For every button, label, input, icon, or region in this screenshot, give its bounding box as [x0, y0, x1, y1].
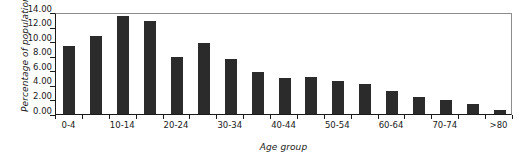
x-tick-label: 20-24: [164, 121, 189, 130]
bar: [494, 110, 506, 114]
y-tick-label: 6.00: [33, 63, 52, 72]
x-tick-mark: [431, 115, 432, 119]
bar: [63, 46, 75, 114]
bar: [144, 21, 156, 114]
x-tick-mark: [378, 115, 379, 119]
y-tick-label: 4.00: [33, 77, 52, 86]
y-tick-label: 12.00: [28, 19, 52, 28]
y-tick-mark: [50, 28, 55, 29]
x-tick-mark: [163, 115, 164, 119]
bar: [117, 16, 129, 114]
x-tick-label: 70-74: [432, 121, 457, 130]
x-tick-label: 50-54: [325, 121, 350, 130]
y-tick-mark: [50, 71, 55, 72]
bars-layer: [56, 14, 511, 114]
x-tick-mark: [82, 115, 83, 119]
x-axis-tick-labels: 0-410-1420-2430-3440-4450-5460-6470-74>8…: [0, 121, 519, 135]
y-tick-label: 8.00: [33, 48, 52, 57]
y-tick-mark: [50, 42, 55, 43]
bar: [279, 78, 291, 114]
x-tick-mark: [351, 115, 352, 119]
bar: [332, 81, 344, 115]
bar: [413, 97, 425, 114]
x-tick-mark: [324, 115, 325, 119]
bar: [305, 77, 317, 114]
plot-area: [55, 13, 512, 115]
x-tick-mark: [189, 115, 190, 119]
y-tick-mark: [50, 13, 55, 14]
x-tick-mark: [55, 115, 56, 119]
x-tick-mark: [297, 115, 298, 119]
x-tick-label: 60-64: [379, 121, 404, 130]
x-tick-label: 0-4: [61, 121, 75, 130]
y-tick-label: 2.00: [33, 92, 52, 101]
y-axis-tick-labels: 14.0012.0010.008.006.004.002.000.00: [18, 9, 52, 117]
x-tick-mark: [243, 115, 244, 119]
bar: [225, 59, 237, 114]
y-tick-mark: [50, 57, 55, 58]
bar: [386, 91, 398, 114]
x-tick-mark: [404, 115, 405, 119]
y-tick-label: 14.00: [28, 5, 52, 14]
bar: [467, 104, 479, 114]
x-tick-mark: [109, 115, 110, 119]
y-tick-label: 10.00: [28, 34, 52, 43]
x-tick-mark: [458, 115, 459, 119]
x-tick-label: >80: [490, 121, 508, 130]
bar-chart: Percentage of population 14.0012.0010.00…: [0, 0, 519, 165]
x-tick-label: 10-14: [110, 121, 135, 130]
bar: [171, 57, 183, 114]
bar: [359, 84, 371, 114]
bar: [252, 72, 264, 114]
x-tick-label: 40-44: [271, 121, 296, 130]
y-tick-mark: [50, 86, 55, 87]
x-tick-mark: [216, 115, 217, 119]
x-tick-mark: [485, 115, 486, 119]
y-tick-mark: [50, 100, 55, 101]
bar: [90, 36, 102, 114]
x-tick-mark: [270, 115, 271, 119]
x-axis-title: Age group: [55, 142, 512, 152]
bar: [440, 100, 452, 114]
x-tick-mark: [512, 115, 513, 119]
x-tick-mark: [136, 115, 137, 119]
y-tick-label: 0.00: [33, 107, 52, 116]
bar: [198, 43, 210, 114]
x-tick-label: 30-34: [217, 121, 242, 130]
